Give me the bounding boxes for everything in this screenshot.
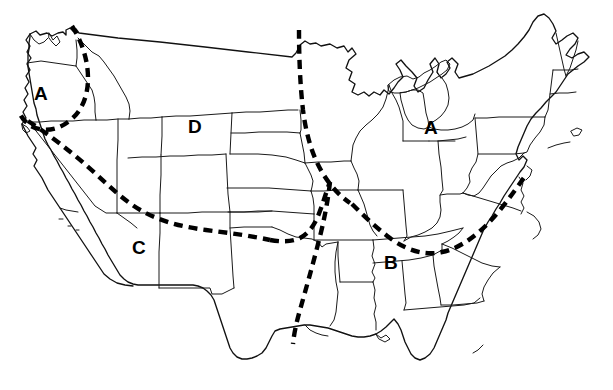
border-nm-south: [159, 288, 234, 294]
border-sd-ne: [230, 154, 305, 163]
border-wa-id: [76, 40, 77, 66]
border-mo-il: [358, 190, 377, 236]
border-mn-ia: [305, 161, 351, 163]
mississippi-delta-detail: [376, 334, 390, 342]
border-nv-id: [96, 119, 129, 120]
border-ut-co: [160, 155, 161, 213]
border-pa-md: [478, 153, 524, 154]
border-wy-co: [128, 154, 226, 158]
border-ar-ms: [372, 240, 375, 282]
cape-cod-detail: [571, 128, 582, 136]
border-ok-panhandle-south: [230, 227, 272, 228]
border-il-in: [403, 190, 407, 241]
border-az-nm: [159, 213, 160, 288]
divider-great-plains: [299, 30, 350, 203]
border-nd-sd: [231, 132, 300, 133]
border-ne-ks: [227, 188, 311, 191]
border-in-oh: [438, 141, 443, 195]
map-graphic: [0, 0, 613, 390]
state-borders-plains-group: [227, 85, 389, 330]
border-al-ga: [433, 255, 441, 305]
border-ms-al: [402, 261, 406, 310]
florida-keys-detail: [473, 345, 483, 353]
divider-appalachian-arc: [352, 175, 526, 253]
border-ar-la: [338, 242, 340, 282]
border-wv-va: [463, 153, 524, 196]
border-wy-ut: [161, 117, 162, 155]
border-ohio-river: [404, 193, 463, 241]
border-ma-north: [553, 69, 578, 70]
border-ga-sc: [482, 267, 500, 301]
border-ia-il: [351, 161, 359, 190]
border-nm-tx: [230, 212, 234, 288]
border-mn-wi: [351, 85, 389, 161]
border-pa-nj: [524, 117, 545, 153]
region-label-d: D: [188, 117, 202, 136]
region-label-a-east: A: [424, 118, 438, 137]
delaware-bay-detail: [526, 166, 532, 180]
olympic-peninsula: [30, 34, 48, 44]
region-label-a-west: A: [34, 84, 48, 103]
border-tx-la: [330, 242, 338, 326]
border-ca-nv: [29, 122, 117, 213]
border-oh-mi: [438, 137, 466, 141]
us-region-map: A D A C B: [0, 0, 613, 390]
border-mt-nd: [232, 110, 298, 113]
divider-great-basin: [28, 121, 270, 240]
border-nv-ut: [117, 119, 118, 213]
northeast-coast-group: [519, 128, 582, 239]
border-sd-mn: [300, 133, 305, 163]
border-ks-ok: [228, 211, 314, 214]
border-wa-or: [27, 61, 76, 66]
border-id-wy: [129, 117, 162, 119]
border-ne-ia: [305, 163, 313, 191]
region-label-b: B: [384, 253, 398, 272]
border-nv-az: [117, 213, 137, 228]
border-oh-pa: [463, 118, 478, 193]
border-ma-ct-ri: [550, 92, 576, 94]
border-co-nm: [160, 212, 230, 213]
border-pa-ny: [475, 117, 545, 118]
border-nc-sc: [442, 244, 500, 267]
border-co-ks: [226, 154, 230, 212]
border-ga-fl-east: [441, 301, 484, 305]
long-island-detail: [548, 142, 570, 148]
outer-banks-detail: [527, 212, 541, 239]
border-la-ms: [373, 282, 376, 330]
border-ks-mo: [311, 191, 314, 214]
border-id-mt: [78, 38, 130, 119]
border-nd-mn: [300, 110, 301, 133]
state-borders-west-group: [27, 38, 298, 294]
region-label-c: C: [132, 238, 146, 257]
divider-texas: [293, 182, 330, 344]
dashed-dividers-group: [20, 26, 526, 344]
